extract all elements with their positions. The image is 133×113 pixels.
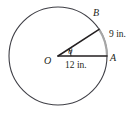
label-center-o: O: [44, 56, 51, 66]
arc-ab-highlight: [99, 29, 107, 56]
label-point-a: A: [110, 53, 116, 63]
label-angle-theta: θ: [68, 47, 72, 56]
geometry-figure: O A B θ 12 in. 9 in.: [0, 0, 133, 113]
measurement-radius-label: 12 in.: [65, 61, 87, 71]
radius-ob-line: [58, 29, 99, 56]
label-point-b: B: [93, 8, 99, 18]
measurement-arc-label: 9 in.: [109, 30, 126, 40]
